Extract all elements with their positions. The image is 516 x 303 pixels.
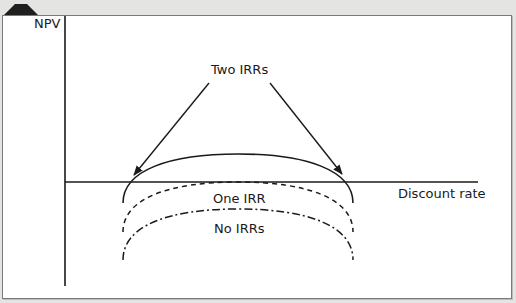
no-irrs-label: No IRRs xyxy=(214,221,264,236)
one-irr-label: One IRR xyxy=(213,191,266,206)
npv-profile-diagram xyxy=(0,0,516,303)
arrow-right-irr xyxy=(270,83,342,174)
x-axis-label: Discount rate xyxy=(398,186,486,201)
two-irrs-label: Two IRRs xyxy=(211,62,268,77)
y-axis-label: NPV xyxy=(34,16,60,31)
